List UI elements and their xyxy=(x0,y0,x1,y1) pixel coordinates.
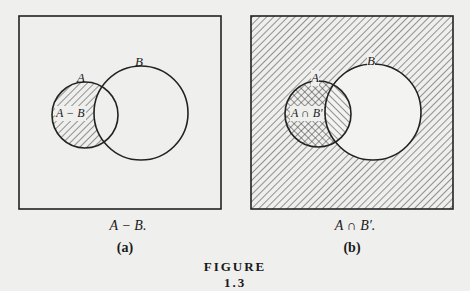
panel-a xyxy=(19,16,221,209)
caption-a: A − B. xyxy=(98,218,158,234)
panel-b xyxy=(251,16,453,209)
label-a: A xyxy=(77,70,85,86)
sublabel-b: (b) xyxy=(337,240,367,256)
region-label-a-intersect-b-complement: A ∩ B′ xyxy=(290,106,324,121)
universe-box-a xyxy=(19,16,221,209)
label-b: B xyxy=(135,54,143,70)
sublabel-a: (a) xyxy=(110,240,140,256)
label-a: A xyxy=(311,70,319,86)
region-label-a-minus-b: A − B xyxy=(55,106,86,121)
figure-title: FIGURE 1.3 xyxy=(190,259,280,291)
label-b: B xyxy=(367,53,375,69)
caption-b: A ∩ B′. xyxy=(320,218,390,234)
